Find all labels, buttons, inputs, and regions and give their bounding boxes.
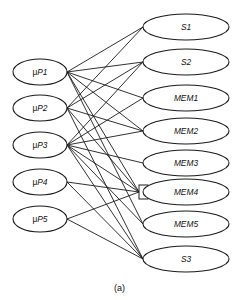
node-label-uP1: μP1 (32, 67, 47, 77)
edge-uP2-to-S1 (67, 27, 143, 108)
figure-caption: (a) (0, 283, 239, 293)
processor-node-uP1[interactable]: μP1 (13, 59, 67, 85)
resource-node-S2[interactable]: S2 (143, 49, 229, 75)
edge-uP5-to-MEM4 (67, 192, 139, 219)
edge-uP4-to-S3 (67, 182, 143, 259)
resource-node-S3[interactable]: S3 (143, 246, 229, 272)
node-label-MEM3: MEM3 (174, 158, 199, 168)
edge-uP3-to-S2 (67, 62, 143, 145)
node-label-MEM1: MEM1 (174, 93, 198, 103)
edge-uP4-to-MEM4 (67, 182, 139, 192)
bipartite-graph: μP1μP2μP3μP4μP5S1S2MEM1MEM2MEM3MEM4MEM5S… (0, 0, 239, 300)
resource-node-MEM1[interactable]: MEM1 (143, 85, 229, 111)
node-label-uP2: μP2 (32, 103, 47, 113)
resource-node-MEM2[interactable]: MEM2 (143, 118, 229, 144)
processor-node-uP4[interactable]: μP4 (13, 169, 67, 195)
edge-uP1-to-MEM4 (67, 72, 139, 192)
edge-uP2-to-MEM2 (67, 108, 143, 131)
edge-uP5-to-S3 (67, 219, 143, 259)
node-label-S1: S1 (181, 22, 191, 32)
node-label-uP3: μP3 (32, 140, 47, 150)
resource-node-MEM4[interactable]: MEM4 (143, 179, 229, 205)
node-label-S3: S3 (181, 254, 192, 264)
node-label-MEM5: MEM5 (174, 219, 199, 229)
node-label-MEM4: MEM4 (174, 187, 199, 197)
node-label-MEM2: MEM2 (174, 126, 199, 136)
edges-layer (67, 27, 143, 259)
resource-node-MEM5[interactable]: MEM5 (143, 211, 229, 237)
edge-uP1-to-S1 (67, 27, 143, 72)
edge-uP3-to-MEM5 (67, 145, 143, 224)
resource-node-S1[interactable]: S1 (143, 14, 229, 40)
resource-node-MEM3[interactable]: MEM3 (143, 150, 229, 176)
figure-canvas: μP1μP2μP3μP4μP5S1S2MEM1MEM2MEM3MEM4MEM5S… (0, 0, 239, 300)
node-label-S2: S2 (181, 57, 192, 67)
nodes-layer: μP1μP2μP3μP4μP5S1S2MEM1MEM2MEM3MEM4MEM5S… (13, 14, 229, 272)
processor-node-uP2[interactable]: μP2 (13, 95, 67, 121)
processor-node-uP5[interactable]: μP5 (13, 206, 67, 232)
edge-uP3-to-MEM4 (67, 145, 139, 192)
processor-node-uP3[interactable]: μP3 (13, 132, 67, 158)
node-label-uP5: μP5 (32, 214, 47, 224)
node-label-uP4: μP4 (32, 177, 47, 187)
